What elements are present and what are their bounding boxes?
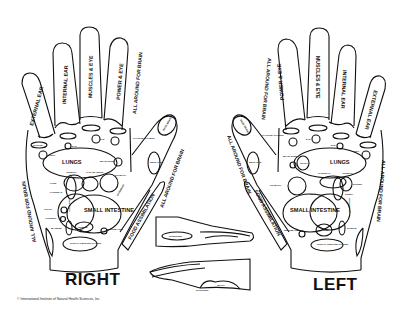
right-small-intestine-label: SMALL INTESTINE bbox=[84, 207, 134, 213]
left-ear-label: EAR bbox=[338, 132, 343, 134]
left-skull-label: SKULL bbox=[352, 150, 360, 152]
left-thumb-tip-label: BASE BRAIN bbox=[239, 119, 249, 134]
left-rectum-circle bbox=[299, 231, 305, 237]
right-parotid-label: PAROTID bbox=[33, 144, 43, 146]
left-rectum-label: RECTUM ANUS bbox=[284, 229, 301, 231]
left-thumb-side-label: ALL AROUND FOR BRAIN bbox=[226, 134, 253, 195]
left-eye-circle bbox=[312, 135, 320, 143]
left-ear2-label: EAR bbox=[331, 144, 336, 146]
left-hand: POWER & EYE MUSCLES & EYE INTERNAL EAR E… bbox=[226, 28, 387, 272]
side-view-lower: HEART SHOULDER bbox=[150, 259, 250, 291]
left-thymus-label: THYROID THYMUS bbox=[262, 134, 284, 137]
left-ring-label: INTERNAL EAR bbox=[340, 70, 348, 109]
left-brain-circle bbox=[290, 162, 296, 168]
left-sigmoid-label: SIGMOID bbox=[347, 227, 357, 229]
right-rectum-label: RECTUM ANUS bbox=[107, 228, 124, 230]
right-pinky-side-label: ALL AROUND FOR BRAIN bbox=[20, 180, 37, 242]
right-ascending-label: ASCENDING bbox=[68, 199, 70, 212]
left-throat bbox=[311, 239, 343, 251]
right-ear2-label: EAR bbox=[72, 145, 77, 147]
lower-shoulder-label: SHOULDER bbox=[196, 289, 209, 291]
right-lungs-label: LUNGS bbox=[62, 159, 82, 165]
right-stomach bbox=[100, 174, 118, 192]
left-small-intestine-label: SMALL INTESTINE bbox=[290, 207, 340, 213]
diagram-drawing: EXTERNAL EAR INTERNAL EAR MUSCLES & EYE … bbox=[0, 0, 409, 318]
right-eye-label: EYE bbox=[100, 138, 105, 140]
right-appendix-circle bbox=[61, 217, 66, 222]
right-ear-label: EAR bbox=[64, 132, 69, 134]
left-lungs-label: LUNGS bbox=[330, 159, 350, 165]
left-heel-line bbox=[291, 268, 361, 272]
right-neck-label: NECK EYE bbox=[150, 161, 163, 164]
left-throat-label: THROAT, PENIS SEX GLANDS bbox=[317, 243, 349, 246]
right-bladder-label: BLADDER bbox=[51, 227, 62, 229]
left-pancreas-label: PANCREAS bbox=[318, 172, 331, 174]
right-pinky-label: EXTERNAL EAR bbox=[28, 86, 44, 127]
left-stomach-label: STOMACH bbox=[270, 184, 281, 186]
left-wrist-bone bbox=[356, 228, 363, 256]
left-neck-label: NECK EYE bbox=[249, 161, 262, 164]
right-liver-label: LIVER bbox=[50, 182, 57, 184]
lower-heart-label: HEART bbox=[217, 284, 225, 286]
side-view-upper: INTESTINES bbox=[156, 217, 254, 247]
right-index-label: POWER & EYE bbox=[115, 63, 124, 101]
right-pancreas-label: PANCREAS bbox=[50, 191, 63, 193]
lower-hand-fingers bbox=[150, 264, 205, 277]
left-transverse-label: TRANSVERSE bbox=[310, 193, 325, 195]
right-teeth-label: TEETH bbox=[86, 124, 94, 126]
right-thymus-label: THYROID THYMUS bbox=[133, 137, 155, 140]
left-adrenal-label: ADRENAL bbox=[342, 172, 353, 174]
upper-intestines-label: INTESTINES bbox=[169, 235, 182, 237]
right-index-side-label: ALL AROUND FOR BRAIN bbox=[131, 51, 143, 114]
left-spleen-label: SPLEEN bbox=[353, 183, 362, 185]
right-middle-label: MUSCLES & EYE bbox=[87, 55, 94, 98]
left-food-label: FOOD ASSIMILATION bbox=[253, 189, 282, 237]
upper-hand-fingers bbox=[200, 232, 250, 238]
right-sigmoid-label: SIGMOID bbox=[78, 226, 88, 228]
reflexology-diagram: EXTERNAL EAR INTERNAL EAR MUSCLES & EYE … bbox=[0, 0, 409, 318]
left-descending-label: DESCENDING bbox=[349, 198, 351, 213]
right-gall-label: GALL BLADDER bbox=[86, 171, 104, 173]
left-bladder-label: BLADDER bbox=[318, 229, 329, 231]
left-stomach bbox=[288, 177, 306, 195]
right-ring-label: INTERNAL EAR bbox=[61, 65, 69, 104]
right-thumb-tip-label: BASE BRAIN bbox=[162, 117, 172, 132]
right-hand-title: RIGHT bbox=[65, 270, 120, 290]
left-nose-label: NOSE bbox=[287, 127, 294, 129]
left-spleen bbox=[340, 177, 352, 191]
right-eye-circle bbox=[92, 135, 100, 143]
right-brain-circle bbox=[114, 158, 122, 166]
right-wrist-bone bbox=[46, 228, 53, 256]
right-thymus-line bbox=[130, 128, 131, 172]
right-thymus-circle bbox=[111, 137, 119, 145]
left-kidney-label: KIDNEY bbox=[345, 193, 354, 195]
right-colon-circle bbox=[61, 207, 67, 213]
right-stomach-label: STOMACH bbox=[115, 174, 126, 176]
left-thymus-circle bbox=[289, 138, 297, 146]
left-eye-label: EYE bbox=[306, 138, 311, 140]
left-index-label: POWER & EYE bbox=[276, 63, 285, 101]
left-pinky-side-label: ALL AROUND FOR BRAIN bbox=[376, 160, 387, 223]
right-skull-label: SKULL bbox=[48, 154, 56, 156]
left-brain-label: BRAIN SLEEP bbox=[283, 155, 298, 157]
right-thumb-side-label: ALL AROUND FOR BRAIN bbox=[158, 148, 185, 209]
right-throat bbox=[63, 237, 97, 251]
right-brain-label: BRAIN SLEEP bbox=[100, 160, 115, 162]
right-adrenal-label: ADRENAL bbox=[66, 171, 77, 173]
right-hand: EXTERNAL EAR INTERNAL EAR MUSCLES & EYE … bbox=[20, 27, 185, 272]
left-teeth-label: TEETH bbox=[313, 124, 321, 126]
left-heart-label: HEART bbox=[300, 162, 308, 164]
right-colon-label: COLON bbox=[44, 208, 52, 210]
left-middle-label: MUSCLES & EYE bbox=[315, 56, 321, 99]
right-appendix-label: APPENDIX bbox=[45, 217, 57, 219]
left-index-side-label: ALL AROUND FOR BRAIN bbox=[260, 58, 272, 121]
copyright-notice: © International Institute of Natural Hea… bbox=[17, 297, 99, 301]
right-nose-label: NOSE bbox=[114, 127, 121, 129]
left-parotid-label: PAROTID bbox=[363, 141, 373, 143]
left-hand-title: LEFT bbox=[313, 275, 358, 295]
